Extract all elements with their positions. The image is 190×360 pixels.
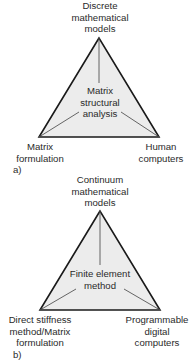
label-line: formulation (9, 337, 72, 349)
label-line: formulation (16, 153, 63, 165)
label-line: analysis (80, 108, 119, 120)
label-line: mathematical (71, 12, 128, 24)
diagram-b-caption: b) (13, 349, 22, 360)
label-line: method (70, 280, 130, 292)
triangle-b (40, 211, 160, 310)
diagram-a-caption: a) (13, 164, 22, 175)
label-line: Matrix (80, 85, 119, 97)
label-line: Continuum (71, 174, 128, 186)
diagram-b-bottom-right-label: Programmable digital computers (126, 314, 189, 349)
label-line: Matrix (16, 141, 63, 153)
label-line: digital (126, 326, 189, 338)
label-line: models (71, 23, 128, 35)
label-line: Programmable (126, 314, 189, 326)
diagram-b-bottom-left-label: Direct stiffness method/Matrix formulati… (9, 314, 72, 349)
diagram-a-center-label: Matrix structural analysis (80, 85, 119, 120)
label-line: Finite element (70, 268, 130, 280)
label-line: method/Matrix (9, 326, 72, 338)
label-line: structural (80, 97, 119, 109)
label-line: Discrete (71, 0, 128, 12)
label-line: mathematical (71, 186, 128, 198)
diagram-b-center-label: Finite element method (70, 268, 130, 291)
diagram-b-top-label: Continuum mathematical models (71, 174, 128, 209)
label-line: Human (139, 141, 184, 153)
label-line: computers (126, 337, 189, 349)
diagram-a-bottom-left-label: Matrix formulation (16, 141, 63, 164)
label-line: models (71, 197, 128, 209)
diagram-a-bottom-right-label: Human computers (139, 141, 184, 164)
label-line: Direct stiffness (9, 314, 72, 326)
label-line: computers (139, 153, 184, 165)
diagram-a-top-label: Discrete mathematical models (71, 0, 128, 35)
